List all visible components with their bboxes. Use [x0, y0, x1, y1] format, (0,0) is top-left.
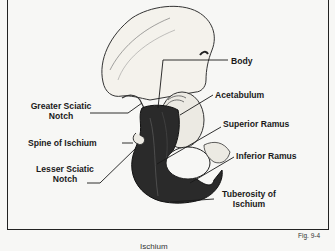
label-tuberosity-of-ischium: Tuberosity of Ischium: [214, 189, 284, 209]
figure-number: Fig. 9-4: [298, 232, 320, 239]
label-spine-of-ischium: Spine of Ischium: [28, 138, 97, 148]
obturator-foramen: [166, 147, 210, 179]
ilium-wing: [102, 6, 214, 100]
label-body: Body: [231, 56, 252, 66]
label-acetabulum: Acetabulum: [215, 90, 264, 100]
label-lesser-sciatic-notch: Lesser Sciatic Notch: [25, 164, 105, 184]
label-superior-ramus: Superior Ramus: [223, 119, 289, 129]
label-inferior-ramus: Inferior Ramus: [236, 151, 297, 161]
label-greater-sciatic-notch: Greater Sciatic Notch: [20, 101, 102, 121]
figure-caption: Ischium: [140, 242, 168, 251]
